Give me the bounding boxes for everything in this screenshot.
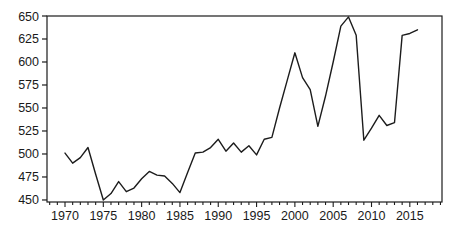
y-axis-tick-label: 525 bbox=[18, 124, 39, 138]
x-axis-tick-label: 2010 bbox=[358, 209, 386, 223]
plot-frame bbox=[47, 16, 442, 202]
x-axis-tick-label: 2005 bbox=[319, 209, 347, 223]
y-axis-tick-label: 650 bbox=[18, 10, 39, 24]
x-axis-tick-label: 1995 bbox=[243, 209, 271, 223]
y-axis-tick-label: 475 bbox=[18, 170, 39, 184]
data-series-line bbox=[65, 17, 417, 200]
x-axis-tick-label: 1980 bbox=[128, 209, 156, 223]
x-axis-tick-label: 1990 bbox=[204, 209, 232, 223]
x-axis-tick-label: 1975 bbox=[89, 209, 117, 223]
x-axis-tick-label: 2000 bbox=[281, 209, 309, 223]
x-axis-tick-label: 1970 bbox=[51, 209, 79, 223]
y-axis-tick-label: 575 bbox=[18, 78, 39, 92]
y-axis-tick-label: 600 bbox=[18, 55, 39, 69]
x-axis-tick-label: 1985 bbox=[166, 209, 194, 223]
y-axis-tick-label: 450 bbox=[18, 193, 39, 207]
line-chart-svg: 4504755005255505756006256501970197519801… bbox=[0, 0, 451, 228]
y-axis-tick-label: 625 bbox=[18, 32, 39, 46]
x-axis-tick-label: 2015 bbox=[396, 209, 424, 223]
y-axis-tick-label: 500 bbox=[18, 147, 39, 161]
line-chart-figure: 4504755005255505756006256501970197519801… bbox=[0, 0, 451, 228]
y-axis-tick-label: 550 bbox=[18, 101, 39, 115]
